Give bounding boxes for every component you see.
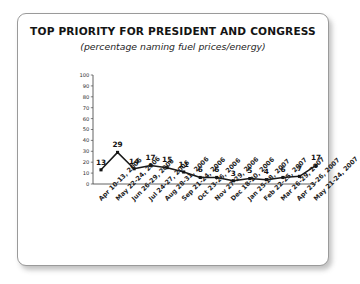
y-tick-label: 90 xyxy=(83,83,90,89)
data-point-marker xyxy=(99,168,102,171)
y-tick-label: 0 xyxy=(86,181,89,187)
y-tick-label: 80 xyxy=(83,94,90,100)
data-point-label: 13 xyxy=(96,158,106,167)
chart-card: TOP PRIORITY FOR PRESIDENT AND CONGRESS … xyxy=(17,13,329,266)
y-axis: 1009080706050403020100 xyxy=(79,72,93,187)
y-tick-label: 100 xyxy=(79,72,89,78)
chart-title: TOP PRIORITY FOR PRESIDENT AND CONGRESS xyxy=(18,25,328,37)
y-tick-label: 60 xyxy=(83,116,90,122)
chart-subtitle: (percentage naming fuel prices/energy) xyxy=(18,41,328,52)
x-axis-labels: Apr 10-13, 2006May 22-24, 2006Jun 26-29,… xyxy=(76,197,326,277)
y-tick-label: 30 xyxy=(83,148,90,154)
data-point-marker xyxy=(116,151,119,154)
y-tick-label: 70 xyxy=(83,105,90,111)
y-tick-label: 20 xyxy=(83,159,90,165)
data-point-label: 29 xyxy=(112,140,122,149)
y-tick-label: 50 xyxy=(83,126,90,132)
y-tick-label: 10 xyxy=(83,170,90,176)
y-tick-label: 40 xyxy=(83,137,90,143)
